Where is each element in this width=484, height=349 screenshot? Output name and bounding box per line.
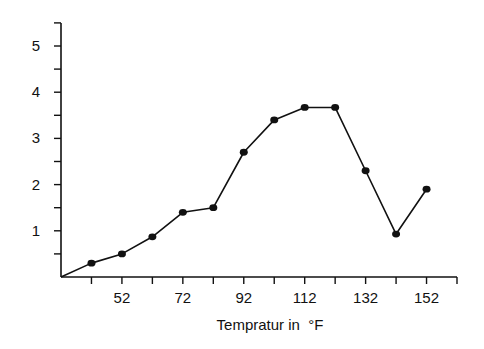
line-chart: 12345 527292112132152 Tempratur in °F <box>0 0 484 349</box>
data-point-marker <box>362 167 370 174</box>
data-point-marker <box>209 204 217 211</box>
x-tick-label: 152 <box>414 289 439 306</box>
x-tick-label: 112 <box>293 289 317 306</box>
data-point-marker <box>301 104 309 111</box>
data-point-marker <box>423 186 431 193</box>
x-tick-label: 132 <box>353 289 378 306</box>
data-point-marker <box>331 104 339 111</box>
data-point-marker <box>392 231 400 238</box>
y-tick-label: 4 <box>32 83 40 100</box>
x-axis-ticks <box>91 277 457 284</box>
x-tick-label: 52 <box>114 289 131 306</box>
y-axis-ticks <box>54 23 61 254</box>
series-line <box>61 107 427 277</box>
x-axis-tick-labels: 527292112132152 <box>114 289 439 306</box>
y-tick-label: 5 <box>32 37 40 54</box>
y-axis-tick-labels: 12345 <box>32 37 40 239</box>
y-axis: 12345 <box>32 23 61 277</box>
y-tick-label: 2 <box>32 176 40 193</box>
x-tick-label: 72 <box>175 289 192 306</box>
x-tick-label: 92 <box>235 289 252 306</box>
data-point-marker <box>270 117 278 124</box>
data-point-marker <box>87 260 95 267</box>
data-point-marker <box>118 251 126 258</box>
y-tick-label: 1 <box>32 222 40 239</box>
y-tick-label: 3 <box>32 129 40 146</box>
data-point-marker <box>148 233 156 240</box>
data-series <box>61 104 431 277</box>
data-point-marker <box>240 149 248 156</box>
x-axis-title: Tempratur in °F <box>217 316 324 333</box>
data-point-marker <box>179 209 187 216</box>
x-axis: 527292112132152 Tempratur in °F <box>61 277 457 333</box>
